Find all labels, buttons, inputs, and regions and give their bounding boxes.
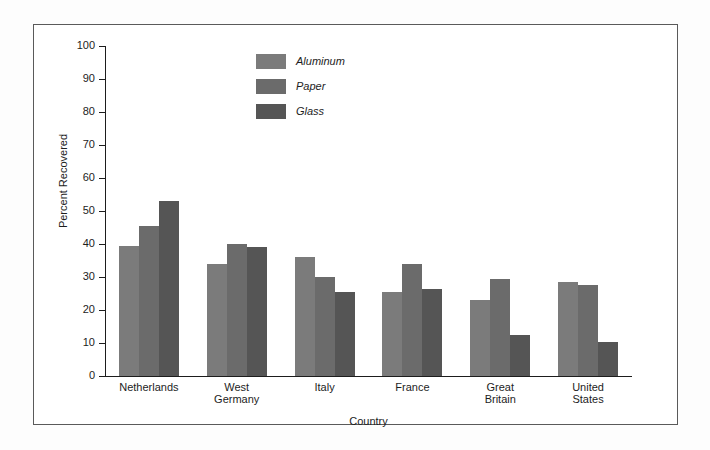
x-axis-category-label: France <box>369 381 457 393</box>
legend-label-paper: Paper <box>296 79 325 94</box>
figure-frame: 0102030405060708090100 Percent Recovered… <box>33 24 678 425</box>
bar-aluminum-great-britain <box>470 300 490 376</box>
x-axis-category-label: Netherlands <box>105 381 193 393</box>
chart-page: 0102030405060708090100 Percent Recovered… <box>0 0 710 450</box>
x-axis-category-label-line: Great <box>456 381 544 393</box>
legend-item-glass: Glass <box>256 102 426 125</box>
x-axis-category-label-line: West <box>193 381 281 393</box>
x-axis-category-label: GreatBritain <box>456 381 544 405</box>
x-axis-category-label-line: Italy <box>281 381 369 393</box>
x-axis-category-label-line: States <box>544 393 632 405</box>
bar-aluminum-italy <box>295 257 315 376</box>
bar-glass-west-germany <box>247 247 267 376</box>
bar-paper-united-states <box>578 285 598 376</box>
bar-glass-great-britain <box>510 335 530 376</box>
plot-area: 0102030405060708090100 Percent Recovered… <box>34 25 679 426</box>
legend-swatch-glass <box>256 104 286 119</box>
bar-paper-great-britain <box>490 279 510 376</box>
bar-paper-france <box>402 264 422 376</box>
bar-aluminum-france <box>382 292 402 376</box>
x-axis-category-label-line: Germany <box>193 393 281 405</box>
bar-aluminum-united-states <box>558 282 578 376</box>
bar-aluminum-netherlands <box>119 246 139 376</box>
x-axis-category-label-line: United <box>544 381 632 393</box>
x-axis-category-label-line: France <box>369 381 457 393</box>
bar-paper-west-germany <box>227 244 247 376</box>
x-axis-category-label: UnitedStates <box>544 381 632 405</box>
legend-item-paper: Paper <box>256 77 426 100</box>
bar-glass-italy <box>335 292 355 376</box>
legend-label-glass: Glass <box>296 104 324 119</box>
x-axis-category-label-line: Netherlands <box>105 381 193 393</box>
bar-glass-united-states <box>598 342 618 376</box>
x-axis-category-label: Italy <box>281 381 369 393</box>
chart-legend: AluminumPaperGlass <box>256 52 426 127</box>
legend-swatch-paper <box>256 79 286 94</box>
bar-paper-italy <box>315 277 335 376</box>
bar-glass-france <box>422 289 442 376</box>
bar-glass-netherlands <box>159 201 179 376</box>
bar-aluminum-west-germany <box>207 264 227 376</box>
bar-paper-netherlands <box>139 226 159 376</box>
legend-label-aluminum: Aluminum <box>296 54 345 69</box>
legend-item-aluminum: Aluminum <box>256 52 426 75</box>
legend-swatch-aluminum <box>256 54 286 69</box>
x-axis-category-label-line: Britain <box>456 393 544 405</box>
x-axis-category-label: WestGermany <box>193 381 281 405</box>
